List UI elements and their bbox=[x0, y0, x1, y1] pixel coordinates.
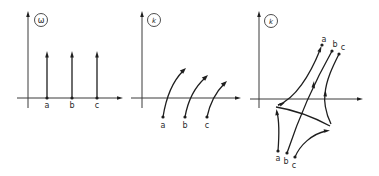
y-axis bbox=[140, 11, 144, 108]
svg-text:b: b bbox=[182, 121, 187, 130]
arrowhead-icon bbox=[45, 51, 49, 58]
axis-arrow-icon bbox=[117, 96, 123, 100]
arrowhead-icon bbox=[312, 81, 316, 88]
axis-arrow-icon bbox=[357, 97, 363, 101]
axis-arrow-icon bbox=[26, 11, 30, 17]
trajectory-b: b b bbox=[283, 40, 337, 166]
trajectory-c: c bbox=[95, 51, 99, 110]
point-c bbox=[205, 115, 208, 118]
svg-text:a: a bbox=[322, 35, 327, 44]
svg-text:a: a bbox=[45, 101, 50, 110]
point-c-end bbox=[337, 52, 340, 55]
point-b-end bbox=[330, 49, 333, 52]
arrowhead-icon bbox=[280, 103, 286, 107]
panel-omega-plane: ω a b c bbox=[17, 11, 123, 110]
svg-text:b: b bbox=[283, 157, 288, 166]
x-axis bbox=[250, 97, 363, 101]
plane-label-k: k bbox=[265, 15, 278, 28]
arrowhead-icon bbox=[95, 51, 99, 58]
axis-arrow-icon bbox=[235, 96, 241, 100]
y-axis bbox=[26, 11, 30, 108]
svg-text:b: b bbox=[332, 40, 337, 49]
point-a-start bbox=[276, 149, 279, 152]
point-a bbox=[45, 96, 48, 99]
x-axis bbox=[131, 96, 241, 100]
trajectory-c: c bbox=[205, 81, 227, 130]
arrowhead-icon bbox=[275, 109, 279, 116]
svg-text:ω: ω bbox=[38, 16, 45, 25]
point-b-start bbox=[285, 151, 288, 154]
svg-text:a: a bbox=[161, 121, 166, 130]
arrowhead-icon bbox=[324, 129, 330, 133]
point-c bbox=[95, 96, 98, 99]
svg-text:c: c bbox=[292, 161, 296, 170]
y-axis bbox=[257, 11, 261, 108]
point-c-start bbox=[293, 155, 296, 158]
trajectory-b: b bbox=[69, 51, 74, 110]
svg-text:b: b bbox=[69, 101, 74, 110]
plane-label-k: k bbox=[148, 14, 161, 27]
svg-text:c: c bbox=[205, 121, 209, 130]
point-b bbox=[183, 115, 186, 118]
point-b bbox=[70, 96, 73, 99]
arrowhead-icon bbox=[317, 46, 321, 53]
point-a bbox=[161, 115, 164, 118]
plane-label-omega: ω bbox=[35, 14, 48, 27]
arrowhead-icon bbox=[70, 51, 74, 58]
svg-text:a: a bbox=[276, 154, 281, 163]
axis-arrow-icon bbox=[140, 11, 144, 17]
x-axis bbox=[17, 96, 123, 100]
trajectory-a: a bbox=[45, 51, 50, 110]
svg-text:k: k bbox=[269, 18, 274, 26]
svg-text:c: c bbox=[95, 101, 99, 110]
panel-k-plane-2: k a a b b bbox=[250, 11, 363, 170]
panel-k-plane-1: k a b c bbox=[131, 11, 241, 130]
axis-arrow-icon bbox=[257, 11, 261, 17]
trajectory-c: c c bbox=[276, 43, 345, 170]
svg-text:k: k bbox=[152, 17, 157, 25]
diagram-figure: ω a b c bbox=[0, 0, 379, 176]
svg-text:c: c bbox=[341, 43, 345, 52]
